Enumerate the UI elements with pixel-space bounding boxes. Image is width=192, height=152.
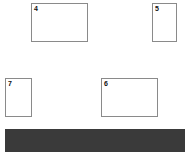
solid-bar [5, 129, 185, 152]
region-label-7: 7 [8, 80, 12, 88]
region-label-5: 5 [155, 5, 159, 13]
region-box-6[interactable]: 6 [101, 78, 158, 117]
region-label-6: 6 [104, 80, 108, 88]
region-box-7[interactable]: 7 [5, 78, 32, 117]
region-box-4[interactable]: 4 [31, 3, 88, 42]
region-layout-canvas: 4 5 7 6 [0, 0, 192, 152]
region-box-5[interactable]: 5 [152, 3, 177, 42]
region-label-4: 4 [34, 5, 38, 13]
